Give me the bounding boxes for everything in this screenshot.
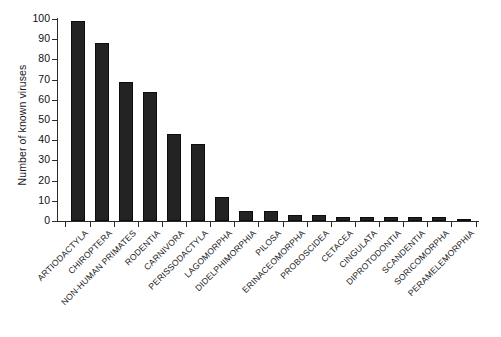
- y-tick-mark: [52, 19, 58, 20]
- y-tick-label: 80: [4, 52, 50, 64]
- y-tick-label: 90: [4, 32, 50, 44]
- y-tick-mark: [52, 80, 58, 81]
- y-tick-label-wrap: 50: [0, 120, 50, 121]
- bar-chart-figure: Number of known viruses 0102030405060708…: [0, 0, 501, 337]
- bar: [71, 21, 85, 221]
- y-tick-label-wrap: 0: [0, 221, 50, 222]
- y-tick-mark: [52, 221, 58, 222]
- y-tick-label: 50: [4, 113, 50, 125]
- y-tick-label: 60: [4, 93, 50, 105]
- y-tick-mark: [52, 120, 58, 121]
- y-tick-label-wrap: 10: [0, 201, 50, 202]
- y-tick-mark: [52, 160, 58, 161]
- y-tick-label: 100: [4, 12, 50, 24]
- y-tick-mark: [52, 201, 58, 202]
- y-tick-label-wrap: 40: [0, 140, 50, 141]
- y-tick-mark: [52, 100, 58, 101]
- y-tick-mark: [52, 59, 58, 60]
- y-tick-label-wrap: 80: [0, 59, 50, 60]
- y-tick-mark: [52, 140, 58, 141]
- bar: [95, 43, 109, 221]
- y-tick-mark: [52, 39, 58, 40]
- y-tick-label-wrap: 100: [0, 19, 50, 20]
- x-tick-mark: [65, 222, 66, 227]
- y-tick-label: 70: [4, 73, 50, 85]
- y-tick-label-wrap: 20: [0, 181, 50, 182]
- y-tick-label-wrap: 70: [0, 80, 50, 81]
- y-tick-label: 0: [4, 214, 50, 226]
- y-tick-label: 10: [4, 194, 50, 206]
- y-tick-label-wrap: 90: [0, 39, 50, 40]
- y-tick-label-wrap: 60: [0, 100, 50, 101]
- y-tick-label-wrap: 30: [0, 160, 50, 161]
- y-tick-label: 30: [4, 153, 50, 165]
- y-tick-mark: [52, 181, 58, 182]
- y-tick-label: 20: [4, 174, 50, 186]
- y-tick-label: 40: [4, 133, 50, 145]
